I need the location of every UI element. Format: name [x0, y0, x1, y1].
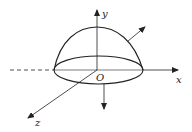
x-axis-label: x: [176, 74, 182, 85]
diagram-canvas: y x z O: [0, 0, 192, 132]
z-axis: [28, 70, 97, 118]
y-axis-label: y: [101, 8, 108, 19]
origin-label: O: [96, 72, 104, 83]
z-axis-label: z: [34, 117, 41, 128]
normal-vector-top: [128, 27, 145, 41]
dome-surface: [54, 27, 143, 70]
